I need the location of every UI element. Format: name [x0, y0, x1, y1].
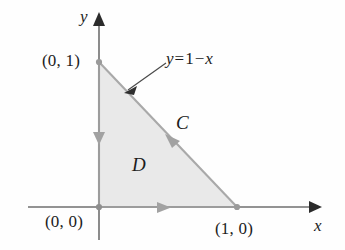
equation-minus-sign: −: [194, 49, 206, 68]
math-figure: y x (0, 1) (0, 0) (1, 0) D C y=1−x: [0, 0, 345, 250]
equation-lhs: y: [166, 49, 174, 68]
vertex-dot-0-1: [96, 59, 102, 65]
y-axis-label: y: [80, 8, 88, 25]
equation-equals-sign: =: [174, 49, 186, 68]
y-axis-arrowhead-icon: [93, 12, 105, 26]
equation-leader-line: [128, 63, 166, 90]
x-axis-arrowhead-icon: [309, 201, 322, 213]
x-axis-label: x: [314, 217, 322, 234]
curve-label-c: C: [176, 113, 189, 132]
equation-constant: 1: [185, 49, 194, 68]
point-label-1-0: (1, 0): [215, 220, 253, 237]
vertex-dot-1-0: [234, 204, 240, 210]
point-label-0-1: (0, 1): [42, 52, 80, 69]
region-label-d: D: [132, 155, 146, 174]
equation-rhs: x: [205, 49, 213, 68]
vertex-dot-0-0: [96, 204, 102, 210]
point-label-0-0: (0, 0): [45, 213, 83, 230]
line-equation-label: y=1−x: [166, 50, 213, 67]
